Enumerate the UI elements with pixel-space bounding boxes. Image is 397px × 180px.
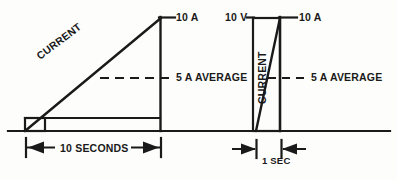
- right-duration-label: 1 SEC: [262, 155, 290, 166]
- right-dimension-arrow-right: [282, 144, 297, 155]
- left-average-label: 5 A AVERAGE: [176, 71, 247, 83]
- diagram-canvas: 10 A 5 A AVERAGE CURRENT 10 SECONDS 10 V…: [0, 0, 397, 180]
- left-dimension-arrow-start: [28, 142, 44, 154]
- right-current-trace-label: CURRENT: [256, 51, 268, 104]
- right-average-label: 5 A AVERAGE: [311, 71, 382, 83]
- left-current-ramp: [25, 18, 161, 131]
- left-peak-label: 10 A: [176, 11, 199, 23]
- left-duration-label: 10 SECONDS: [60, 142, 129, 154]
- right-peak-label: 10 A: [299, 11, 322, 23]
- left-dimension-arrow-end: [143, 142, 159, 154]
- right-voltage-label: 10 V: [225, 11, 247, 23]
- right-dimension-arrow-left: [241, 144, 256, 155]
